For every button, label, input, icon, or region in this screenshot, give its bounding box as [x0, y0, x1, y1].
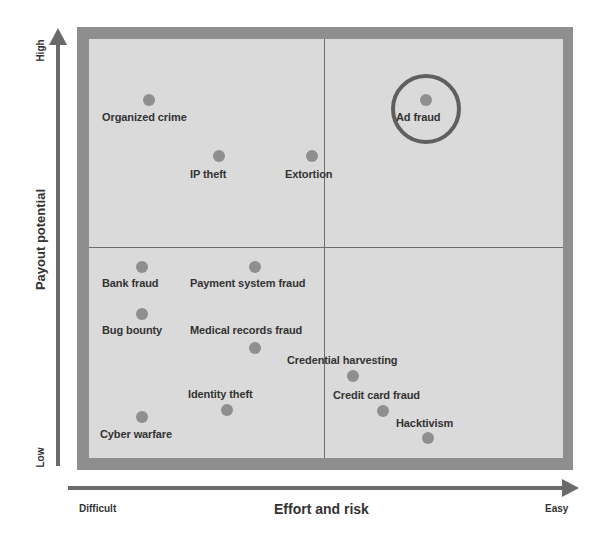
- data-point-medical-records-fraud: [249, 342, 261, 354]
- point-label-hacktivism: Hacktivism: [396, 417, 453, 429]
- point-label-ad-fraud: Ad fraud: [396, 111, 440, 123]
- point-label-identity-theft: Identity theft: [188, 388, 253, 400]
- y-axis-low-label: Low: [35, 438, 46, 478]
- data-point-hacktivism: [422, 432, 434, 444]
- data-point-credential-harvesting: [347, 370, 359, 382]
- data-point-identity-theft: [221, 404, 233, 416]
- highlight-ring-ad-fraud: [391, 74, 461, 144]
- x-axis-arrow-shaft: [68, 486, 564, 490]
- quadrant-divider-horizontal: [89, 247, 563, 248]
- x-axis-difficult-label: Difficult: [79, 503, 116, 514]
- data-point-cyber-warfare: [136, 411, 148, 423]
- point-label-organized-crime: Organized crime: [102, 111, 187, 123]
- y-axis-high-label: High: [35, 31, 46, 71]
- data-point-credit-card-fraud: [377, 405, 389, 417]
- point-label-credential-harvesting: Credential harvesting: [287, 354, 397, 366]
- y-axis-arrowhead-icon: [49, 28, 67, 45]
- plot-area: Organized crime Ad fraud IP theft Extort…: [89, 39, 563, 458]
- point-label-medical-records-fraud: Medical records fraud: [190, 324, 302, 336]
- point-label-extortion: Extortion: [285, 168, 332, 180]
- y-axis-title: Payout potential: [33, 180, 48, 300]
- data-point-payment-system-fraud: [249, 261, 261, 273]
- data-point-bank-fraud: [136, 261, 148, 273]
- x-axis-arrowhead-icon: [562, 479, 579, 497]
- point-label-credit-card-fraud: Credit card fraud: [333, 389, 420, 401]
- data-point-extortion: [306, 150, 318, 162]
- x-axis-title: Effort and risk: [274, 501, 369, 517]
- point-label-ip-theft: IP theft: [190, 168, 226, 180]
- point-label-bank-fraud: Bank fraud: [102, 277, 158, 289]
- data-point-ip-theft: [213, 150, 225, 162]
- data-point-ad-fraud: [420, 94, 432, 106]
- point-label-cyber-warfare: Cyber warfare: [100, 428, 172, 440]
- point-label-bug-bounty: Bug bounty: [102, 324, 162, 336]
- quadrant-divider-vertical: [324, 39, 325, 458]
- data-point-bug-bounty: [136, 308, 148, 320]
- y-axis-arrow-shaft: [56, 44, 60, 466]
- point-label-payment-system-fraud: Payment system fraud: [190, 277, 305, 289]
- x-axis-easy-label: Easy: [545, 503, 568, 514]
- data-point-organized-crime: [143, 94, 155, 106]
